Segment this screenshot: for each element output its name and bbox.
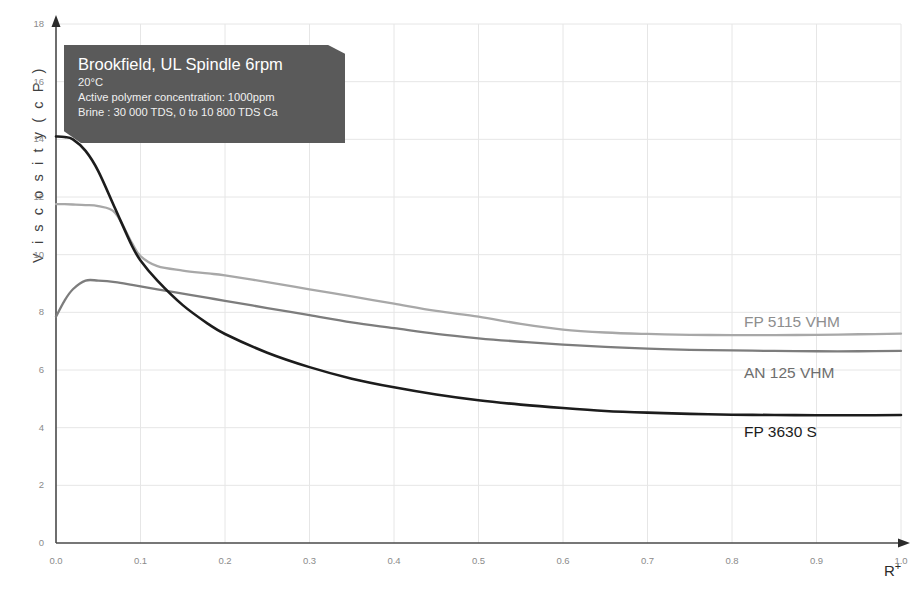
x-tick-label: 0.5 <box>459 556 499 566</box>
annotation-callout: Brookfield, UL Spindle 6rpm 20°C Active … <box>64 45 345 143</box>
x-axis-arrowhead <box>898 539 910 548</box>
y-tick-label: 8 <box>10 307 44 317</box>
x-tick-label: 0.6 <box>543 556 583 566</box>
series-label-fp-5115-vhm: FP 5115 VHM <box>744 314 840 330</box>
x-tick-label: 0.0 <box>36 556 76 566</box>
y-tick-label: 10 <box>10 250 44 260</box>
y-tick-label: 4 <box>10 423 44 433</box>
y-tick-label: 6 <box>10 365 44 375</box>
y-tick-label: 2 <box>10 480 44 490</box>
annotation-line-concentration: Active polymer concentration: 1000ppm <box>78 90 333 105</box>
y-tick-label: 18 <box>10 19 44 29</box>
series-label-an-125-vhm: AN 125 VHM <box>744 365 834 381</box>
viscosity-chart: V i s c o s i t y ( c P ) R+ 02468101214… <box>0 0 922 593</box>
x-tick-label: 0.1 <box>121 556 161 566</box>
y-tick-label: 0 <box>10 538 44 548</box>
annotation-title: Brookfield, UL Spindle 6rpm <box>78 54 333 74</box>
x-tick-label: 0.8 <box>712 556 752 566</box>
x-tick-label: 0.2 <box>205 556 245 566</box>
x-tick-label: 1.0 <box>881 556 921 566</box>
annotation-line-temperature: 20°C <box>78 75 333 90</box>
series-label-fp-3630-s: FP 3630 S <box>744 424 817 440</box>
x-tick-label: 0.7 <box>628 556 668 566</box>
x-tick-label: 0.9 <box>797 556 837 566</box>
x-tick-label: 0.3 <box>290 556 330 566</box>
y-tick-label: 14 <box>10 134 44 144</box>
y-tick-label: 16 <box>10 77 44 87</box>
y-tick-label: 12 <box>10 192 44 202</box>
x-tick-label: 0.4 <box>374 556 414 566</box>
annotation-line-brine: Brine : 30 000 TDS, 0 to 10 800 TDS Ca <box>78 105 333 120</box>
y-axis-arrowhead <box>52 15 61 27</box>
